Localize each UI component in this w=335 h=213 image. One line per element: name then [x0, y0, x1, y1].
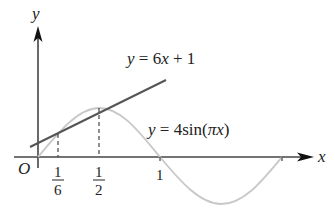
sine-equation-label: y = 4sin(πx) — [146, 120, 229, 139]
line-curve — [30, 80, 166, 147]
line-equation-label: y = 6x + 1 — [125, 49, 195, 68]
svg-text:1: 1 — [95, 164, 103, 180]
x-axis-label: x — [317, 147, 326, 166]
tick-label-half: 1 2 — [93, 164, 105, 198]
tick-label-one: 1 — [156, 167, 164, 183]
svg-text:6: 6 — [54, 182, 62, 198]
y-axis-label: y — [30, 4, 40, 23]
tick-label-sixth: 1 6 — [52, 164, 64, 198]
svg-text:1: 1 — [54, 164, 62, 180]
svg-text:2: 2 — [95, 182, 103, 198]
function-graph: y x O 1 6 1 2 1 y = 6x + 1 y = 4sin(πx) — [0, 0, 335, 213]
origin-label: O — [18, 159, 30, 178]
